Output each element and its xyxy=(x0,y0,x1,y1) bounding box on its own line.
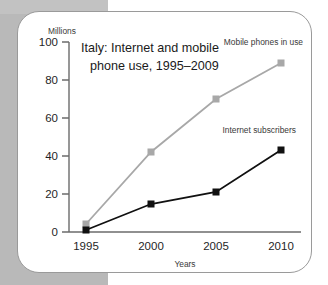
chart-card: Millions 100 80 60 40 20 0 1995 2000 200… xyxy=(17,11,312,273)
y-tick-label-0: 0 xyxy=(52,226,58,238)
chart-title-line1: Italy: Internet and mobile xyxy=(81,41,219,55)
series-line-internet-subscribers xyxy=(86,150,281,230)
series-annotation-internet-subscribers: Internet subscribers xyxy=(222,125,296,135)
page-background-corner-bottom-left xyxy=(0,273,108,285)
y-axis-label: Millions xyxy=(48,26,76,36)
x-tick-label-2005: 2005 xyxy=(203,240,229,252)
data-point-mobile-2009 xyxy=(278,60,285,67)
series-line-mobile-phones xyxy=(86,63,281,224)
data-point-internet-2000 xyxy=(148,201,155,208)
y-tick-label-100: 100 xyxy=(39,36,58,48)
y-tick-label-20: 20 xyxy=(45,188,58,200)
data-point-internet-2005 xyxy=(213,189,220,196)
data-point-mobile-1995 xyxy=(83,221,90,228)
chart-title-line2: phone use, 1995–2009 xyxy=(90,59,219,73)
x-tick-label-2000: 2000 xyxy=(138,240,164,252)
x-tick-label-1995: 1995 xyxy=(73,240,99,252)
y-tick-label-80: 80 xyxy=(45,74,58,86)
data-point-mobile-2000 xyxy=(148,149,155,156)
line-chart: Millions 100 80 60 40 20 0 1995 2000 200… xyxy=(18,12,312,273)
series-annotation-mobile-phones: Mobile phones in use xyxy=(224,37,303,47)
x-tick-label-2010: 2010 xyxy=(268,240,294,252)
y-tick-label-40: 40 xyxy=(45,150,58,162)
data-point-mobile-2005 xyxy=(213,96,220,103)
x-axis-label: Years xyxy=(174,259,195,269)
y-tick-label-60: 60 xyxy=(45,112,58,124)
data-point-internet-2009 xyxy=(278,147,285,154)
data-point-internet-1995 xyxy=(83,227,90,234)
